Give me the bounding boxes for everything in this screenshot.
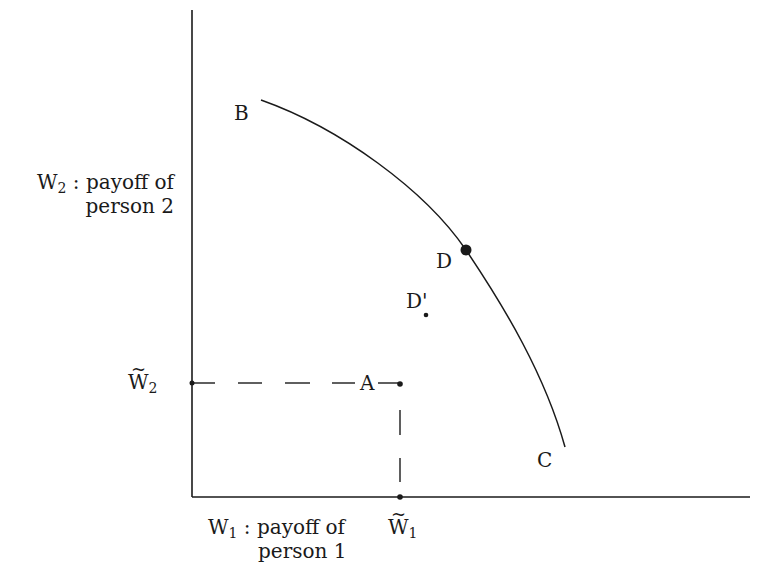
y-tick-label: W2 <box>128 370 157 394</box>
x-axis-var: W <box>208 515 229 539</box>
y-axis-label-line2: person 2 <box>24 194 174 218</box>
point-b-label: B <box>234 101 249 125</box>
point-d-label: D <box>436 249 452 273</box>
x-axis-label-line2: person 1 <box>208 539 346 563</box>
x-axis-label: W1 : payoff of person 1 <box>208 515 346 563</box>
x-tick-var: W <box>388 515 409 539</box>
point-a-dot <box>397 381 403 387</box>
frontier-curve <box>261 100 565 447</box>
y-axis-var: W <box>37 170 58 194</box>
point-c-label: C <box>537 448 552 472</box>
diagram-canvas <box>0 0 768 585</box>
y-axis-label: W2 : payoff of person 2 <box>24 170 174 218</box>
x-tick-dot <box>397 494 403 500</box>
x-tick-label: W1 <box>388 515 417 539</box>
y-tick-dot <box>190 381 195 386</box>
point-d-dot <box>461 245 472 256</box>
x-tick-sub: 1 <box>409 525 418 541</box>
point-d-prime-label: D' <box>406 289 428 313</box>
x-axis-label-line1: : payoff of <box>237 515 345 539</box>
y-tick-sub: 2 <box>149 380 158 396</box>
point-a-label: A <box>358 371 376 395</box>
point-d-prime-dot <box>424 313 429 318</box>
y-axis-label-line1: : payoff of <box>66 170 174 194</box>
y-tick-var: W <box>128 370 149 394</box>
